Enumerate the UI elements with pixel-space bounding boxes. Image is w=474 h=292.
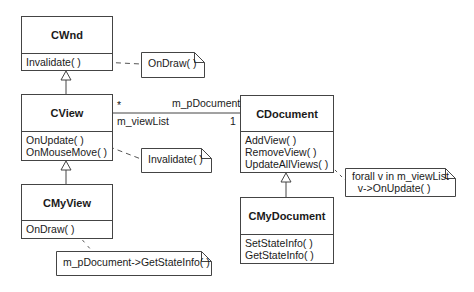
note-text: m_pDocument->GetStateInfo( ) bbox=[63, 256, 210, 268]
operation: Invalidate( ) bbox=[26, 56, 112, 68]
operations: AddView( ) RemoveView( ) UpdateAllViews(… bbox=[241, 132, 333, 172]
operation: RemoveView( ) bbox=[245, 146, 333, 158]
note-getstateinfo: m_pDocument->GetStateInfo( ) bbox=[56, 251, 212, 276]
operation: OnDraw( ) bbox=[26, 223, 112, 235]
class-cmydocument[interactable]: CMyDocument SetStateInfo( ) GetStateInfo… bbox=[240, 197, 334, 264]
note-forall: forall v in m_viewList v->OnUpdate( ) bbox=[345, 168, 456, 197]
class-cview[interactable]: CView OnUpdate( ) OnMouseMove( ) bbox=[21, 94, 113, 161]
class-cdocument[interactable]: CDocument AddView( ) RemoveView( ) Updat… bbox=[240, 95, 334, 173]
note-invalidate: Invalidate( ) bbox=[141, 148, 212, 173]
view-multiplicity: * bbox=[117, 99, 121, 111]
note-text: OnDraw( ) bbox=[148, 57, 196, 69]
inheritance-arrow-icon bbox=[61, 161, 71, 170]
inheritance-arrow-icon bbox=[281, 173, 291, 182]
note-ondraw: OnDraw( ) bbox=[141, 52, 205, 78]
class-name: CView bbox=[22, 95, 112, 132]
class-name: CMyView bbox=[22, 185, 112, 221]
class-cwnd[interactable]: CWnd Invalidate( ) bbox=[21, 16, 113, 71]
inheritance-arrow-icon bbox=[61, 71, 71, 80]
document-multiplicity: 1 bbox=[230, 115, 236, 127]
view-role: m_viewList bbox=[117, 115, 169, 127]
class-name: CDocument bbox=[241, 96, 333, 132]
class-name: CWnd bbox=[22, 17, 112, 54]
class-name: CMyDocument bbox=[241, 198, 333, 235]
note-text-line2: v->OnUpdate( ) bbox=[352, 182, 452, 194]
note-text-line1: forall v in m_viewList bbox=[352, 170, 452, 182]
operations: SetStateInfo( ) GetStateInfo( ) bbox=[241, 235, 333, 263]
operation: OnMouseMove( ) bbox=[26, 146, 112, 158]
operation: UpdateAllViews( ) bbox=[245, 158, 333, 170]
operation: OnUpdate( ) bbox=[26, 134, 112, 146]
note-text: Invalidate( ) bbox=[148, 153, 203, 165]
operation: SetStateInfo( ) bbox=[245, 237, 333, 249]
operation: AddView( ) bbox=[245, 134, 333, 146]
document-role: m_pDocument bbox=[172, 97, 240, 109]
operations: OnUpdate( ) OnMouseMove( ) bbox=[22, 132, 112, 160]
operations: OnDraw( ) bbox=[22, 221, 112, 238]
operations: Invalidate( ) bbox=[22, 54, 112, 70]
operation: GetStateInfo( ) bbox=[245, 249, 333, 261]
class-cmyview[interactable]: CMyView OnDraw( ) bbox=[21, 184, 113, 239]
